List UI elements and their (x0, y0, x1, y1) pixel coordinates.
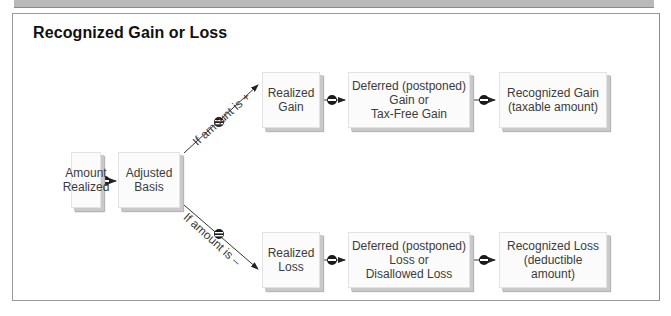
minus-circle-icon (327, 255, 337, 265)
minus-circle-icon (479, 95, 489, 105)
minus-circle-icon (327, 95, 337, 105)
minus-circle-icon (479, 255, 489, 265)
node-realized-loss: Realized Loss (262, 232, 320, 288)
node-recognized-loss: Recognized Loss (deductible amount) (499, 232, 607, 288)
node-recognized-gain: Recognized Gain (taxable amount) (499, 72, 607, 128)
node-amount-realized-label: Amount Realized (71, 152, 101, 208)
node-deferred-gain: Deferred (postponed) Gain or Tax-Free Ga… (348, 72, 470, 128)
node-deferred-loss: Deferred (postponed) Loss or Disallowed … (348, 232, 470, 288)
node-adjusted-basis: Adjusted Basis (118, 152, 180, 208)
node-realized-gain: Realized Gain (262, 72, 320, 128)
